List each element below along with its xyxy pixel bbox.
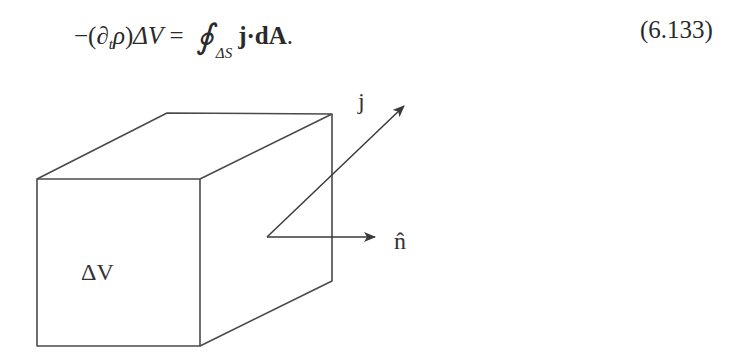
current-vector-label: j — [358, 88, 365, 115]
cube-right-face — [200, 114, 332, 346]
volume-element-diagram — [0, 0, 747, 359]
normal-vector-label: n̂ — [394, 228, 406, 255]
cube-front-face — [37, 179, 200, 346]
cube-top-face — [37, 113, 332, 179]
current-vector-arrow — [267, 106, 404, 237]
vectors — [267, 106, 404, 237]
cube-outline — [37, 113, 332, 346]
volume-label: ΔV — [81, 259, 114, 286]
